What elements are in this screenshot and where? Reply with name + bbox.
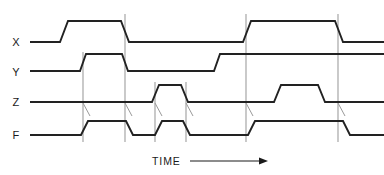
signal-label-group: XYZF	[12, 36, 20, 141]
signal-label-x: X	[12, 36, 20, 48]
causal-tick-3	[186, 103, 193, 116]
waveform-x	[30, 21, 384, 42]
grid-line-group	[83, 14, 338, 142]
timing-diagram-canvas: XYZF TIME	[0, 0, 384, 175]
causal-tick-2	[155, 103, 162, 116]
signal-label-y: Y	[12, 66, 20, 78]
causal-tick-5	[338, 103, 345, 116]
causal-tick-0	[83, 103, 90, 116]
signal-label-f: F	[12, 129, 19, 141]
time-axis-group: TIME	[152, 155, 268, 167]
causal-tick-group	[83, 103, 345, 116]
causal-tick-4	[246, 103, 253, 116]
signal-label-z: Z	[12, 96, 19, 108]
time-arrow-head	[259, 157, 268, 164]
timing-diagram: XYZF TIME	[0, 0, 384, 175]
time-axis-label: TIME	[152, 155, 181, 167]
causal-tick-1	[125, 103, 132, 116]
